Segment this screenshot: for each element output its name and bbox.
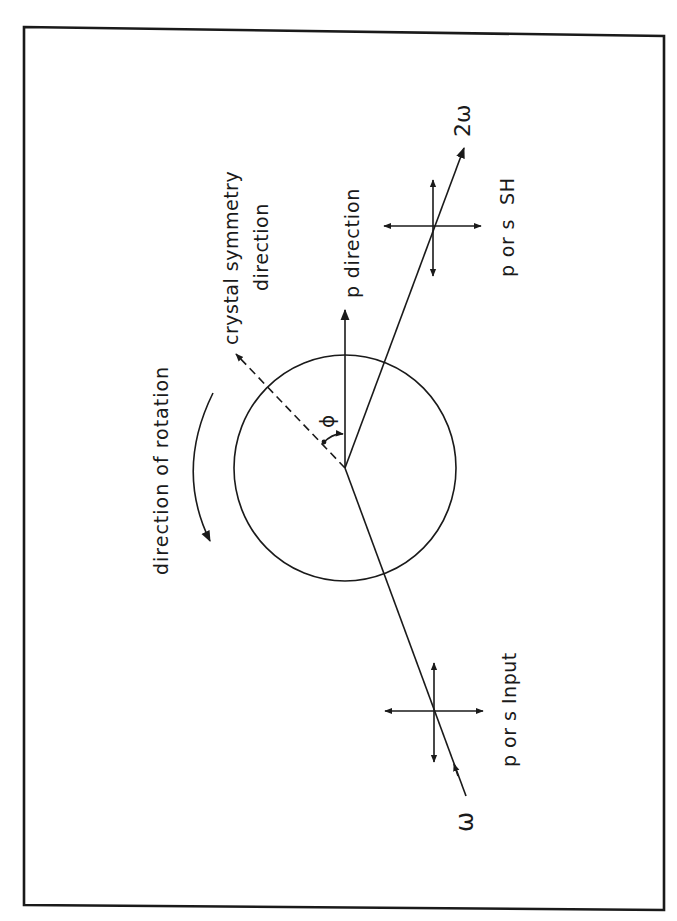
input-frequency-label: ω <box>451 812 479 832</box>
crystal-symmetry-label-line1: crystal symmetry <box>220 171 242 345</box>
input-polarization-cross <box>385 663 483 762</box>
p-direction-label: p direction <box>341 188 363 298</box>
shg-rotation-diagram: direction of rotation crystal symmetry d… <box>0 0 677 921</box>
output-polarization-cross <box>384 180 481 276</box>
rotation-arrow <box>193 393 213 541</box>
incident-direction-mark <box>454 764 458 776</box>
rotation-label: direction of rotation <box>150 366 172 575</box>
phi-symbol: ϕ <box>315 415 339 428</box>
input-polarization-label: p or s Input <box>498 652 520 767</box>
output-polarization-label: p or s SH <box>496 177 518 277</box>
figure-frame <box>24 27 664 910</box>
crystal-symmetry-arrow <box>236 354 345 468</box>
incident-beam <box>345 468 466 796</box>
output-frequency-label: 2ω <box>450 105 475 137</box>
phi-arc-dot <box>322 440 327 445</box>
crystal-symmetry-label-line2: direction <box>250 203 272 291</box>
